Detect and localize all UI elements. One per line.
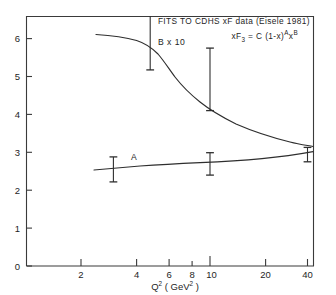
x-axis-title: Q2 ( GeV2 ) [151, 280, 199, 292]
curve-label-A: A [131, 152, 137, 162]
y-ticklabel-3: 3 [15, 147, 20, 158]
x-ticklabel-10: 10 [206, 269, 217, 280]
x-ticklabel-2: 2 [78, 269, 83, 280]
annotation-line-1: FITS TO CDHS xF data (Eisele 1981) [158, 16, 310, 26]
curve-label-B: B x 10 [158, 37, 185, 47]
x-axis-tick-labels: 2 4 6 8 10 20 40 [78, 269, 312, 280]
errorbar-B-q10 [206, 48, 214, 111]
y-ticklabel-4: 4 [15, 109, 20, 120]
x-ticklabel-6: 6 [166, 269, 171, 280]
x-axis-title-unit: ( GeV [162, 281, 190, 292]
curve-A [94, 152, 313, 170]
formula-sup-B: B [293, 29, 298, 36]
figure-panel: 0 1 2 3 4 5 6 2 4 6 8 10 20 40 [0, 0, 336, 295]
annotation-line-2: xF3 = C (1-x)AxB [231, 29, 298, 43]
y-axis-tick-labels: 0 1 2 3 4 5 6 [15, 33, 20, 271]
y-ticklabel-6: 6 [15, 33, 20, 44]
errorbar-A-q10 [206, 153, 214, 175]
y-ticklabel-5: 5 [15, 71, 20, 82]
y-ticklabel-0: 0 [15, 261, 20, 272]
y-ticklabel-1: 1 [15, 223, 20, 234]
x-axis-title-main: Q [151, 281, 158, 292]
errorbar-B-q5 [146, 16, 154, 70]
x-ticklabel-40: 40 [302, 269, 313, 280]
curve-B-times-10 [96, 35, 313, 147]
x-axis-ticks [81, 256, 308, 266]
x-ticklabel-4: 4 [134, 269, 139, 280]
errorbar-A-q3 [110, 157, 118, 182]
formula-xF: xF [231, 31, 241, 41]
x-ticklabel-8: 8 [189, 269, 194, 280]
plot-svg: 0 1 2 3 4 5 6 2 4 6 8 10 20 40 [0, 0, 336, 295]
y-axis-ticks [27, 39, 33, 266]
x-ticklabel-20: 20 [260, 269, 271, 280]
y-ticklabel-2: 2 [15, 185, 20, 196]
formula-mid: = C (1-x) [245, 31, 284, 41]
x-axis-title-close: ) [193, 281, 199, 292]
plot-frame [27, 16, 315, 266]
errorbar-A-q40 [304, 147, 312, 161]
